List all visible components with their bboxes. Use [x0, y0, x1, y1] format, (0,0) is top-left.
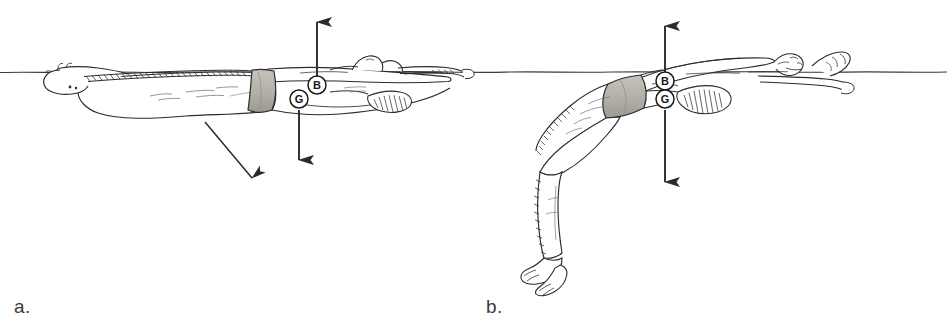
label-g-text: G	[661, 93, 670, 105]
label-b-text: B	[313, 79, 321, 91]
buoyancy-float-diagram: B G	[0, 0, 947, 332]
panel-a-label-B: B	[308, 76, 326, 94]
panel-a-caption: a.	[14, 296, 31, 318]
panel-b-label-B: B	[656, 72, 674, 90]
panel-b-label-G: G	[656, 90, 674, 108]
swimsuit-panel-a	[248, 69, 276, 112]
label-b-text: B	[661, 75, 669, 87]
canvas-background	[0, 0, 947, 332]
panel-b-caption: b.	[486, 296, 503, 318]
label-g-text: G	[295, 93, 304, 105]
panel-a-label-G: G	[290, 90, 308, 108]
